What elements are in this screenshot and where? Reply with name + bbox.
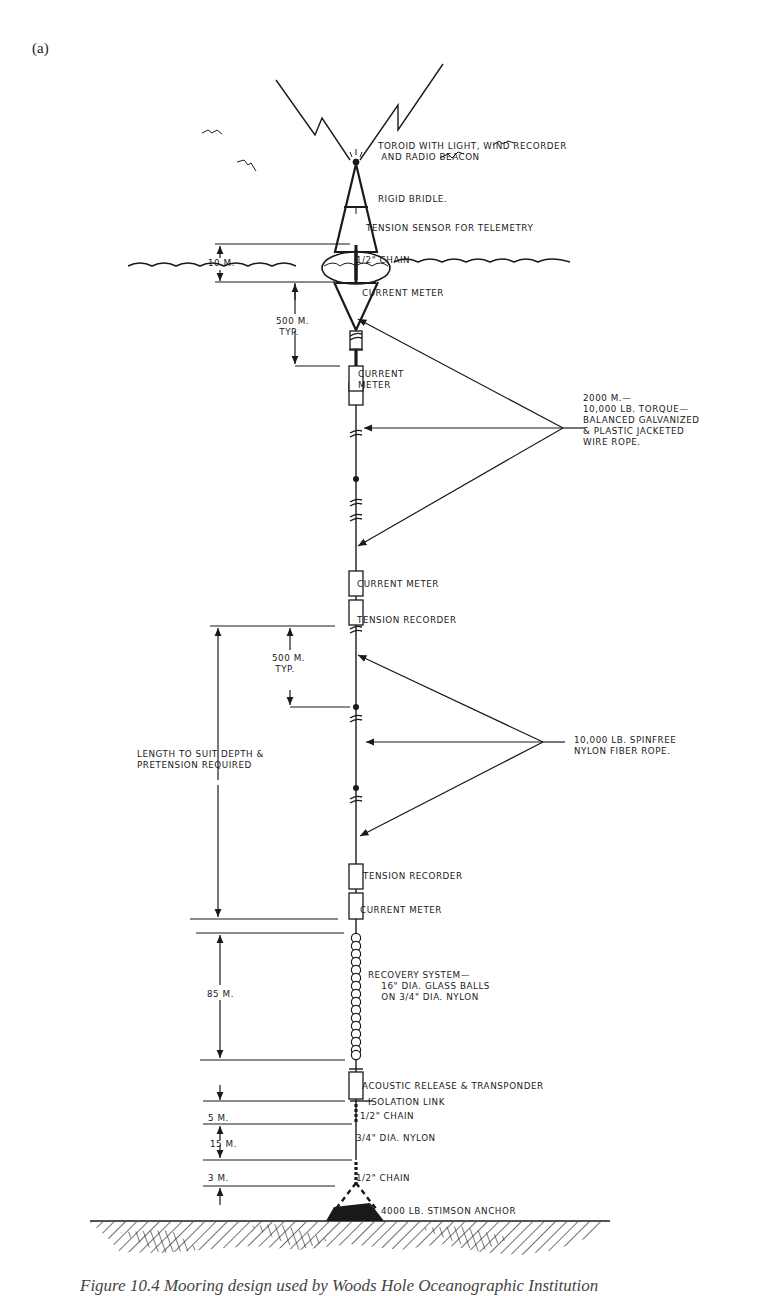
label-chain-top: 1/2" CHAIN: [356, 254, 410, 265]
dim-5m: 5 M.: [208, 1112, 229, 1123]
glass-balls: [351, 933, 360, 1059]
stimson-anchor: [326, 1183, 384, 1221]
label-isolation-link: ISOLATION LINK: [368, 1096, 445, 1107]
dim-500m-lower: 500 M. TYP.: [272, 652, 305, 674]
dim-15m: 15 M.: [210, 1138, 237, 1149]
label-chain-lower: 1/2" CHAIN: [360, 1110, 414, 1121]
label-current-meter-4: CURRENT METER: [360, 904, 442, 915]
label-recovery-system: RECOVERY SYSTEM— 16" DIA. GLASS BALLS ON…: [368, 969, 490, 1002]
label-tension-recorder-2: TENSION RECORDER: [363, 870, 463, 881]
panel-label: (a): [32, 40, 49, 57]
label-wire-rope: 2000 M.— 10,000 LB. TORQUE— BALANCED GAL…: [583, 392, 700, 447]
label-toroid: TOROID WITH LIGHT, WIND RECORDER AND RAD…: [378, 140, 567, 162]
label-tension-recorder-1: TENSION RECORDER: [357, 614, 457, 625]
wire-rope-pointers: [358, 319, 585, 546]
dim-10m: 10 M.: [208, 257, 235, 268]
dim-3m: 3 M.: [208, 1172, 229, 1183]
label-tension-sensor: TENSION SENSOR FOR TELEMETRY: [366, 222, 533, 233]
dimension-lines: [190, 244, 352, 1205]
label-current-meter-3: CURRENT METER: [357, 578, 439, 589]
sea-floor: [90, 1221, 610, 1255]
label-length-note: LENGTH TO SUIT DEPTH & PRETENSION REQUIR…: [137, 748, 264, 770]
dim-500m-upper: 500 M. TYP.: [276, 315, 309, 337]
label-anchor: 4000 LB. STIMSON ANCHOR: [381, 1205, 516, 1216]
label-acoustic-release: ACOUSTIC RELEASE & TRANSPONDER: [362, 1080, 544, 1091]
label-chain-bottom: 1/2" CHAIN: [356, 1172, 410, 1183]
label-current-meter-1: CURRENT METER: [362, 287, 444, 298]
label-current-meter-2: CURRENT METER: [358, 368, 404, 390]
label-nylon-lower: 3/4" DIA. NYLON: [356, 1132, 436, 1143]
beacon-light-icon: [350, 149, 362, 165]
nylon-rope-pointers: [358, 655, 565, 836]
label-rigid-bridle: RIGID BRIDLE.: [378, 193, 447, 204]
figure-caption: Figure 10.4 Mooring design used by Woods…: [80, 1276, 598, 1296]
dim-85m: 85 M.: [207, 988, 234, 999]
label-nylon-rope: 10,000 LB. SPINFREE NYLON FIBER ROPE.: [574, 734, 676, 756]
